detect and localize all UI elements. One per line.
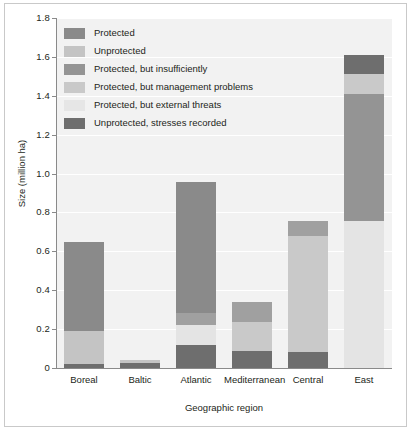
bar-atlantic <box>176 182 216 368</box>
gridline <box>56 212 392 213</box>
bar-segment <box>232 351 272 368</box>
y-tick-label: 0 <box>6 362 50 373</box>
bar-segment <box>232 302 272 322</box>
legend-label: Unprotected, stresses recorded <box>94 116 227 130</box>
y-axis-title: Size (million ha) <box>16 109 27 239</box>
y-tick-label: 0.8 <box>6 206 50 217</box>
gridline <box>56 251 392 252</box>
y-tick-label: 1.4 <box>6 90 50 101</box>
x-axis-title: Geographic region <box>56 402 392 413</box>
bar-segment <box>344 221 384 368</box>
y-axis-line <box>56 18 57 369</box>
legend-swatch-icon <box>64 28 85 39</box>
bar-segment <box>64 242 104 331</box>
gridline <box>56 18 392 19</box>
bar-segment <box>344 94 384 221</box>
bar-segment <box>344 55 384 75</box>
legend-swatch-icon <box>64 82 85 93</box>
legend-swatch-icon <box>64 46 85 57</box>
gridline <box>56 329 392 330</box>
bar-segment <box>64 331 104 364</box>
y-tick-label: 1.2 <box>6 129 50 140</box>
bar-baltic <box>120 360 160 368</box>
legend-swatch-icon <box>64 100 85 111</box>
x-tick-label: Baltic <box>112 374 168 385</box>
bar-central <box>288 221 328 368</box>
y-tick-mark <box>52 18 56 19</box>
gridline <box>56 174 392 175</box>
bar-segment <box>232 322 272 351</box>
legend-swatch-icon <box>64 64 85 75</box>
bar-segment <box>176 182 216 312</box>
bar-segment <box>176 325 216 344</box>
legend-label: Protected, but management problems <box>94 80 253 94</box>
y-tick-mark <box>52 174 56 175</box>
y-tick-mark <box>52 96 56 97</box>
y-tick-mark <box>52 57 56 58</box>
x-tick-label: East <box>336 374 392 385</box>
y-tick-label: 1.6 <box>6 51 50 62</box>
y-tick-label: 0.2 <box>6 323 50 334</box>
bar-east <box>344 55 384 368</box>
y-tick-mark <box>52 135 56 136</box>
x-tick-label: Boreal <box>56 374 112 385</box>
y-tick-label: 0.6 <box>6 245 50 256</box>
bar-segment <box>176 345 216 368</box>
bar-mediterranean <box>232 302 272 368</box>
legend-swatch-icon <box>64 118 85 129</box>
y-tick-label: 1.8 <box>6 12 50 23</box>
gridline <box>56 290 392 291</box>
x-tick-label: Atlantic <box>168 374 224 385</box>
x-tick-label: Mediterranean <box>224 374 280 385</box>
x-axis-line <box>56 368 392 369</box>
y-tick-mark <box>52 251 56 252</box>
gridline <box>56 135 392 136</box>
y-tick-label: 0.4 <box>6 284 50 295</box>
bar-segment <box>344 74 384 93</box>
legend-label: Protected, but insufficiently <box>94 62 207 76</box>
y-tick-mark <box>52 290 56 291</box>
y-tick-label: 1.0 <box>6 168 50 179</box>
legend-label: Protected <box>94 26 135 40</box>
x-tick-label: Central <box>280 374 336 385</box>
y-tick-mark <box>52 329 56 330</box>
y-tick-mark <box>52 212 56 213</box>
bar-boreal <box>64 242 104 368</box>
legend-label: Unprotected <box>94 44 146 58</box>
bar-segment <box>120 363 160 368</box>
bar-segment <box>64 364 104 368</box>
legend-label: Protected, but external threats <box>94 98 221 112</box>
gridline <box>56 96 392 97</box>
y-tick-mark <box>52 368 56 369</box>
bar-segment <box>288 352 328 368</box>
chart-page: 00.20.40.60.81.01.21.41.61.8 Size (milli… <box>0 0 412 432</box>
bar-segment <box>176 313 216 326</box>
bar-segment <box>288 221 328 236</box>
bar-segment <box>288 236 328 353</box>
